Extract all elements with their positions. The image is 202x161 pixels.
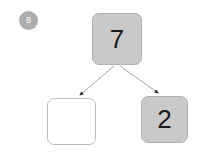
tree-node-left-child[interactable]: [47, 98, 96, 145]
tree-node-right-child-value: 2: [157, 104, 171, 135]
diagram-canvas: 8 7 2: [0, 0, 202, 161]
tree-node-root[interactable]: 7: [92, 13, 142, 65]
edge-root-to-left-child: [80, 66, 114, 95]
tree-node-right-child[interactable]: 2: [141, 96, 188, 143]
tree-node-root-value: 7: [110, 24, 124, 55]
edge-root-to-right-child: [120, 66, 158, 93]
step-badge: 8: [19, 11, 38, 30]
